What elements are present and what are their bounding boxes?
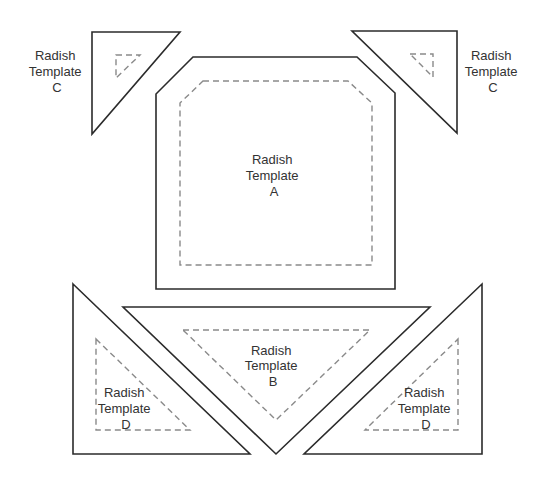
template-c-left-label-line-3: C bbox=[52, 80, 61, 95]
template-d-left-label-line-3: D bbox=[121, 417, 130, 432]
template-b-label-line-2: Template bbox=[245, 358, 298, 373]
template-a: Radish Template A bbox=[156, 57, 395, 289]
template-c-right-label-line-2: Template bbox=[465, 64, 518, 79]
template-b: Radish Template B bbox=[123, 307, 430, 454]
template-b-label: Radish Template B bbox=[245, 343, 301, 389]
template-c-right-label-line-3: C bbox=[488, 80, 497, 95]
template-c-right-label: Radish Template C bbox=[465, 48, 521, 95]
template-b-label-line-3: B bbox=[269, 374, 278, 389]
template-c-left-label: Radish Template C bbox=[29, 48, 85, 95]
template-d-left-label: Radish Template D bbox=[98, 385, 154, 432]
template-d-right: Radish Template D bbox=[304, 284, 482, 454]
template-d-left-label-line-1: Radish bbox=[104, 385, 144, 400]
template-c-right-label-line-1: Radish bbox=[471, 48, 511, 63]
template-a-label-line-1: Radish bbox=[252, 152, 292, 167]
template-d-right-label-line-3: D bbox=[421, 417, 430, 432]
template-d-right-label-line-1: Radish bbox=[404, 385, 444, 400]
template-canvas: Radish Template A Radish Template B Radi… bbox=[0, 0, 542, 486]
template-diagram: Radish Template A Radish Template B Radi… bbox=[0, 0, 542, 486]
template-d-right-label: Radish Template D bbox=[398, 385, 454, 432]
template-d-right-cut-line bbox=[304, 284, 482, 454]
template-a-label: Radish Template A bbox=[246, 152, 302, 199]
template-c-left-label-line-2: Template bbox=[29, 64, 82, 79]
template-c-left: Radish Template C bbox=[29, 32, 180, 134]
template-c-left-label-line-1: Radish bbox=[35, 48, 75, 63]
template-d-left-label-line-2: Template bbox=[98, 401, 151, 416]
template-c-left-seam-line bbox=[116, 55, 140, 78]
template-d-right-label-line-2: Template bbox=[398, 401, 451, 416]
template-a-label-line-3: A bbox=[270, 184, 279, 199]
template-c-right-cut-line bbox=[352, 31, 457, 133]
template-c-right-seam-line bbox=[410, 54, 433, 77]
template-a-label-line-2: Template bbox=[246, 168, 299, 183]
template-c-right: Radish Template C bbox=[352, 31, 521, 133]
template-b-label-line-1: Radish bbox=[251, 343, 291, 358]
